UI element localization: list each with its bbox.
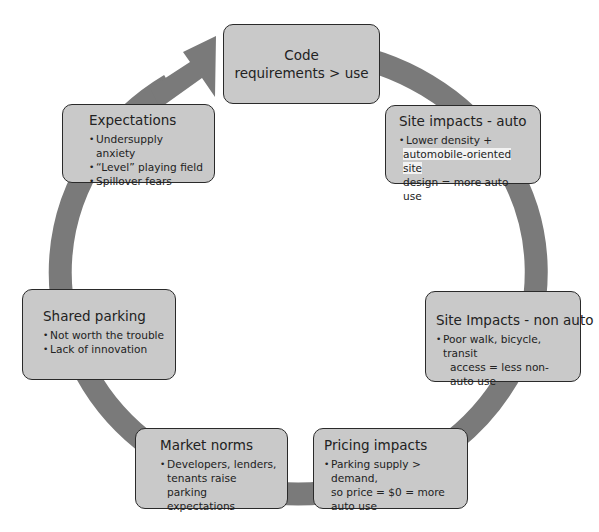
node-market-title: Market norms bbox=[160, 437, 277, 453]
node-pricing-title: Pricing impacts bbox=[324, 437, 457, 453]
node-pricing-impacts: Pricing impacts Parking supply > demand,… bbox=[313, 428, 468, 509]
node-code-title-line-2: requirements > use bbox=[234, 64, 368, 82]
node-site-impacts-auto: Site impacts - auto Lower density + auto… bbox=[385, 105, 541, 184]
node-market-bullet-cont: tenants raise parking bbox=[160, 471, 277, 499]
node-pricing-bullet: Parking supply > demand, bbox=[324, 457, 457, 485]
node-expectations-bullet: “Level” playing field bbox=[89, 160, 204, 174]
node-site-non-auto-bullet-cont: access = less non-auto use bbox=[436, 360, 570, 388]
node-market-bullet-cont: expectations bbox=[160, 499, 277, 513]
node-expectations-bullet: Spillover fears bbox=[89, 174, 204, 188]
node-site-auto-bullet-cont: automobile-oriented site bbox=[399, 147, 530, 175]
node-site-auto-bullet-cont: design = more auto use bbox=[399, 175, 530, 203]
node-shared-bullet: Lack of innovation bbox=[43, 342, 165, 356]
node-shared-parking: Shared parking Not worth the trouble Lac… bbox=[22, 289, 176, 380]
node-shared-title: Shared parking bbox=[43, 308, 165, 324]
node-site-impacts-non-auto: Site Impacts - non auto Poor walk, bicyc… bbox=[425, 291, 581, 382]
node-expectations-title: Expectations bbox=[89, 112, 204, 128]
node-pricing-bullet-cont: so price = $0 = more bbox=[324, 485, 457, 499]
node-market-bullet: Developers, lenders, bbox=[160, 457, 277, 471]
node-expectations: Expectations Undersupply anxiety “Level”… bbox=[62, 104, 215, 183]
node-site-non-auto-title: Site Impacts - non auto bbox=[436, 312, 570, 328]
node-expectations-bullet: Undersupply anxiety bbox=[89, 132, 204, 160]
node-code-title-line-1: Code bbox=[284, 46, 319, 64]
node-shared-bullet: Not worth the trouble bbox=[43, 328, 165, 342]
node-code-requirements: Code requirements > use bbox=[223, 24, 380, 104]
node-site-auto-title: Site impacts - auto bbox=[399, 113, 530, 129]
node-pricing-bullet-cont: auto use bbox=[324, 499, 457, 513]
node-market-norms: Market norms Developers, lenders, tenant… bbox=[135, 428, 288, 509]
cycle-arrowhead-icon bbox=[150, 36, 216, 108]
node-site-non-auto-bullet: Poor walk, bicycle, transit bbox=[436, 332, 570, 360]
node-site-auto-bullet: Lower density + bbox=[399, 133, 530, 147]
